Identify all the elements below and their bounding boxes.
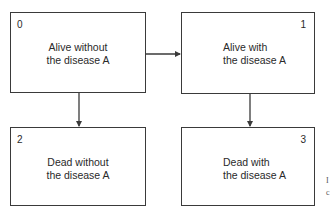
cropped-caption-fragment: c (326, 188, 330, 197)
state-label: Alive with the disease A (182, 41, 314, 67)
state-label-line1: Dead without (11, 156, 145, 169)
state-label: Alive without the disease A (11, 41, 145, 67)
state-label: Dead without the disease A (11, 156, 145, 182)
state-box-alive-with-disease: 1 Alive with the disease A (181, 12, 315, 94)
state-label-line1: Alive without (11, 41, 145, 54)
state-number: 2 (17, 134, 23, 145)
cropped-caption-fragment: I (326, 176, 329, 185)
state-number: 1 (300, 19, 306, 30)
state-box-alive-without-disease: 0 Alive without the disease A (10, 12, 146, 93)
state-label-line2: the disease A (11, 54, 145, 67)
state-label-line2: the disease A (11, 169, 145, 182)
state-label-line1: Alive with (223, 41, 314, 54)
state-label-line2: the disease A (223, 54, 314, 67)
state-box-dead-with-disease: 3 Dead with the disease A (181, 127, 315, 206)
state-label: Dead with the disease A (182, 156, 314, 182)
state-box-dead-without-disease: 2 Dead without the disease A (10, 127, 146, 206)
state-label-line2: the disease A (223, 169, 314, 182)
state-number: 0 (17, 19, 23, 30)
state-label-line1: Dead with (223, 156, 314, 169)
state-number: 3 (300, 134, 306, 145)
